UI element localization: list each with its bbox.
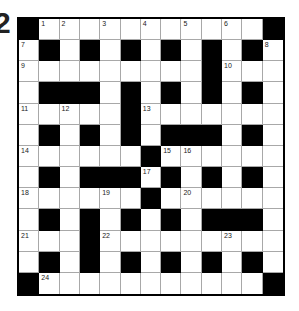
- crossword-cell[interactable]: [222, 125, 242, 146]
- crossword-cell[interactable]: [181, 209, 201, 230]
- crossword-cell[interactable]: [161, 188, 181, 209]
- crossword-cell[interactable]: [80, 146, 100, 167]
- crossword-cell[interactable]: [222, 273, 242, 294]
- crossword-cell[interactable]: [60, 146, 80, 167]
- crossword-cell[interactable]: [161, 61, 181, 82]
- crossword-cell[interactable]: [100, 125, 120, 146]
- crossword-cell[interactable]: [39, 188, 59, 209]
- crossword-cell[interactable]: [19, 125, 39, 146]
- crossword-cell[interactable]: [181, 252, 201, 273]
- crossword-cell[interactable]: [60, 273, 80, 294]
- crossword-cell[interactable]: [121, 231, 141, 252]
- crossword-cell[interactable]: 13: [141, 104, 161, 125]
- crossword-cell[interactable]: [161, 231, 181, 252]
- crossword-cell[interactable]: [80, 188, 100, 209]
- crossword-cell[interactable]: [263, 146, 283, 167]
- crossword-cell[interactable]: [100, 209, 120, 230]
- crossword-cell[interactable]: [60, 125, 80, 146]
- crossword-cell[interactable]: [141, 252, 161, 273]
- crossword-cell[interactable]: [161, 273, 181, 294]
- crossword-cell[interactable]: [161, 104, 181, 125]
- crossword-cell[interactable]: [19, 82, 39, 103]
- crossword-cell[interactable]: 5: [181, 19, 201, 40]
- crossword-cell[interactable]: [121, 188, 141, 209]
- crossword-cell[interactable]: [263, 167, 283, 188]
- crossword-cell[interactable]: [202, 231, 222, 252]
- crossword-cell[interactable]: [242, 61, 262, 82]
- crossword-cell[interactable]: 14: [19, 146, 39, 167]
- crossword-cell[interactable]: [100, 61, 120, 82]
- crossword-cell[interactable]: [39, 61, 59, 82]
- crossword-cell[interactable]: [242, 273, 262, 294]
- crossword-cell[interactable]: [202, 19, 222, 40]
- crossword-cell[interactable]: [263, 252, 283, 273]
- crossword-cell[interactable]: [242, 19, 262, 40]
- crossword-cell[interactable]: [60, 231, 80, 252]
- crossword-cell[interactable]: 17: [141, 167, 161, 188]
- crossword-cell[interactable]: [60, 252, 80, 273]
- crossword-cell[interactable]: [202, 104, 222, 125]
- crossword-cell[interactable]: 10: [222, 61, 242, 82]
- crossword-cell[interactable]: [181, 167, 201, 188]
- crossword-cell[interactable]: [60, 167, 80, 188]
- crossword-cell[interactable]: [263, 231, 283, 252]
- crossword-cell[interactable]: [242, 146, 262, 167]
- crossword-cell[interactable]: [263, 61, 283, 82]
- crossword-cell[interactable]: [80, 19, 100, 40]
- crossword-cell[interactable]: [222, 82, 242, 103]
- crossword-cell[interactable]: 6: [222, 19, 242, 40]
- crossword-cell[interactable]: [181, 104, 201, 125]
- crossword-cell[interactable]: [121, 19, 141, 40]
- crossword-cell[interactable]: [100, 252, 120, 273]
- crossword-cell[interactable]: [181, 231, 201, 252]
- crossword-cell[interactable]: [100, 146, 120, 167]
- crossword-cell[interactable]: [80, 104, 100, 125]
- crossword-cell[interactable]: [141, 231, 161, 252]
- crossword-cell[interactable]: [181, 40, 201, 61]
- crossword-cell[interactable]: 12: [60, 104, 80, 125]
- crossword-cell[interactable]: [181, 273, 201, 294]
- crossword-cell[interactable]: [80, 273, 100, 294]
- crossword-cell[interactable]: [141, 125, 161, 146]
- crossword-cell[interactable]: [141, 273, 161, 294]
- crossword-cell[interactable]: 2: [60, 19, 80, 40]
- crossword-cell[interactable]: [60, 61, 80, 82]
- crossword-cell[interactable]: [19, 252, 39, 273]
- crossword-cell[interactable]: [222, 188, 242, 209]
- crossword-cell[interactable]: [263, 104, 283, 125]
- crossword-cell[interactable]: [242, 188, 262, 209]
- crossword-cell[interactable]: [121, 146, 141, 167]
- crossword-cell[interactable]: [141, 40, 161, 61]
- crossword-cell[interactable]: [100, 82, 120, 103]
- crossword-cell[interactable]: [39, 231, 59, 252]
- crossword-cell[interactable]: [222, 252, 242, 273]
- crossword-cell[interactable]: [100, 273, 120, 294]
- crossword-cell[interactable]: 21: [19, 231, 39, 252]
- crossword-cell[interactable]: 15: [161, 146, 181, 167]
- crossword-cell[interactable]: [202, 188, 222, 209]
- crossword-cell[interactable]: [181, 61, 201, 82]
- crossword-cell[interactable]: 8: [263, 40, 283, 61]
- crossword-cell[interactable]: [263, 188, 283, 209]
- crossword-cell[interactable]: [100, 104, 120, 125]
- crossword-cell[interactable]: [141, 209, 161, 230]
- crossword-cell[interactable]: 3: [100, 19, 120, 40]
- crossword-cell[interactable]: 11: [19, 104, 39, 125]
- crossword-cell[interactable]: [242, 231, 262, 252]
- crossword-cell[interactable]: [60, 188, 80, 209]
- crossword-cell[interactable]: [161, 19, 181, 40]
- crossword-cell[interactable]: [141, 61, 161, 82]
- crossword-cell[interactable]: 22: [100, 231, 120, 252]
- crossword-cell[interactable]: 1: [39, 19, 59, 40]
- crossword-cell[interactable]: [141, 82, 161, 103]
- crossword-cell[interactable]: [121, 61, 141, 82]
- crossword-cell[interactable]: [121, 273, 141, 294]
- crossword-cell[interactable]: [181, 82, 201, 103]
- crossword-cell[interactable]: [39, 104, 59, 125]
- crossword-cell[interactable]: [263, 82, 283, 103]
- crossword-cell[interactable]: [242, 104, 262, 125]
- crossword-cell[interactable]: [39, 146, 59, 167]
- crossword-cell[interactable]: [222, 104, 242, 125]
- crossword-cell[interactable]: 16: [181, 146, 201, 167]
- crossword-cell[interactable]: 19: [100, 188, 120, 209]
